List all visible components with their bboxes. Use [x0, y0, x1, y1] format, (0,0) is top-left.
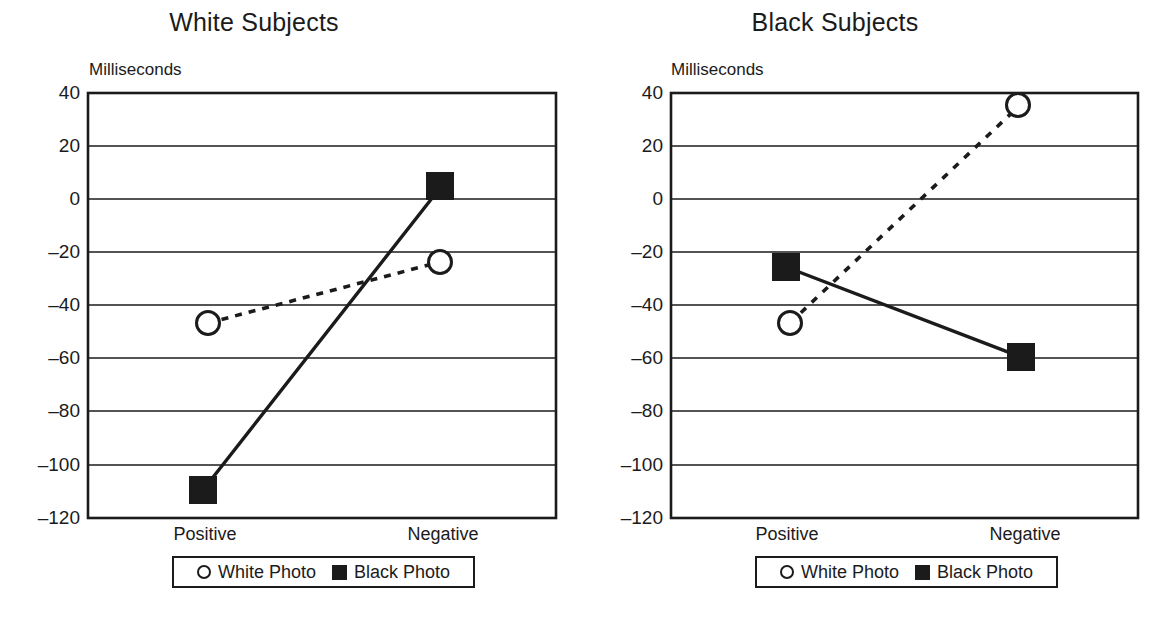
legend-label-white-photo: White Photo: [801, 562, 899, 583]
gridlines-black: [671, 146, 1138, 465]
data-point-white-photo-negative-black-panel: [1007, 94, 1030, 117]
x-tick-label-negative-black: Negative: [989, 524, 1060, 545]
y-tick-label-0: 0: [28, 188, 80, 210]
y-tick-label-neg40: –40: [28, 294, 80, 316]
x-tick-label-positive-white: Positive: [173, 524, 236, 545]
y-tick-label-40: 40: [28, 82, 80, 104]
y-tick-label-neg100: –100: [603, 454, 663, 476]
series-line-white-photo-black-panel: [790, 107, 1018, 323]
legend-black-subjects: White Photo Black Photo: [755, 556, 1058, 588]
x-tick-label-positive-black: Positive: [755, 524, 818, 545]
chart-panel-white-subjects: White Subjects Milliseconds: [0, 0, 578, 617]
legend-label-black-photo: Black Photo: [354, 562, 450, 583]
series-line-black-photo-white-panel: [203, 188, 440, 490]
open-circle-icon: [780, 565, 794, 579]
y-tick-label-neg80: –80: [28, 400, 80, 422]
y-tick-label-0: 0: [611, 188, 663, 210]
y-tick-label-neg100: –100: [20, 454, 80, 476]
gridlines-white: [88, 146, 556, 465]
filled-square-icon: [332, 565, 347, 580]
data-point-black-photo-positive-white-panel: [189, 476, 217, 504]
series-line-white-photo-white-panel: [208, 262, 440, 323]
y-tick-label-neg20: –20: [28, 241, 80, 263]
data-point-black-photo-positive-black-panel: [772, 253, 800, 281]
y-tick-label-neg120: –120: [20, 507, 80, 529]
filled-square-icon: [915, 565, 930, 580]
legend-entry-white-photo: White Photo: [197, 562, 316, 583]
data-point-white-photo-negative-white-panel: [429, 251, 452, 274]
legend-label-white-photo: White Photo: [218, 562, 316, 583]
data-point-white-photo-positive-white-panel: [197, 312, 220, 335]
y-tick-label-neg40: –40: [611, 294, 663, 316]
y-tick-label-neg120: –120: [603, 507, 663, 529]
legend-entry-black-photo: Black Photo: [915, 562, 1033, 583]
series-line-black-photo-black-panel: [786, 267, 1021, 357]
plot-area-black-subjects: [578, 0, 1156, 617]
legend-entry-white-photo: White Photo: [780, 562, 899, 583]
y-tick-label-neg20: –20: [611, 241, 663, 263]
plot-area-white-subjects: [0, 0, 578, 617]
data-point-white-photo-positive-black-panel: [779, 312, 802, 335]
legend-label-black-photo: Black Photo: [937, 562, 1033, 583]
legend-entry-black-photo: Black Photo: [332, 562, 450, 583]
legend-white-subjects: White Photo Black Photo: [172, 556, 475, 588]
y-tick-label-neg60: –60: [611, 347, 663, 369]
y-tick-label-20: 20: [28, 135, 80, 157]
data-point-black-photo-negative-black-panel: [1007, 343, 1035, 371]
y-tick-label-neg60: –60: [28, 347, 80, 369]
chart-panel-black-subjects: Black Subjects Milliseconds: [578, 0, 1156, 617]
data-point-black-photo-negative-white-panel: [426, 172, 454, 200]
y-tick-label-40: 40: [611, 82, 663, 104]
y-tick-label-neg80: –80: [611, 400, 663, 422]
x-tick-label-negative-white: Negative: [407, 524, 478, 545]
open-circle-icon: [197, 565, 211, 579]
y-tick-label-20: 20: [611, 135, 663, 157]
